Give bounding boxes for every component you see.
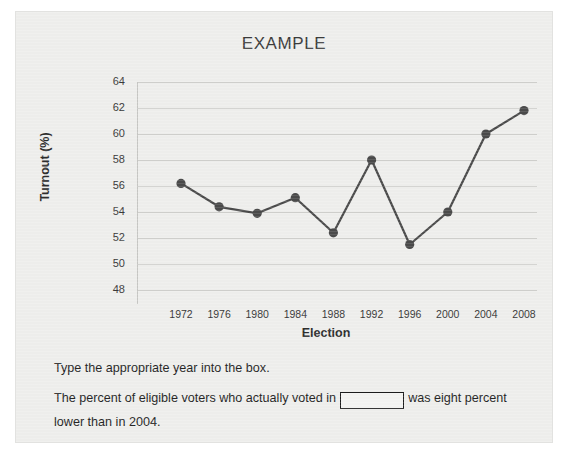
data-point-marker <box>253 209 262 218</box>
series-line <box>181 111 524 245</box>
question-instruction: Type the appropriate year into the box. <box>54 356 524 380</box>
content-panel: EXAMPLE Turnout (%) Election 48505254565… <box>16 12 552 442</box>
question-text-before: The percent of eligible voters who actua… <box>54 391 336 405</box>
data-point-marker <box>291 193 300 202</box>
data-point-marker <box>443 207 452 216</box>
question-block: Type the appropriate year into the box. … <box>54 356 524 434</box>
question-text-after: was eight percent <box>408 391 507 405</box>
page-root: EXAMPLE Turnout (%) Election 48505254565… <box>0 0 576 454</box>
data-point-marker <box>519 106 528 115</box>
question-text-line3: lower than in 2004. <box>54 415 160 429</box>
data-point-marker <box>176 179 185 188</box>
data-point-marker <box>329 228 338 237</box>
data-point-marker <box>481 129 490 138</box>
year-answer-input[interactable] <box>340 392 404 409</box>
data-point-marker <box>405 240 414 249</box>
data-point-marker <box>367 155 376 164</box>
question-prompt: The percent of eligible voters who actua… <box>54 386 524 434</box>
data-point-marker <box>215 202 224 211</box>
